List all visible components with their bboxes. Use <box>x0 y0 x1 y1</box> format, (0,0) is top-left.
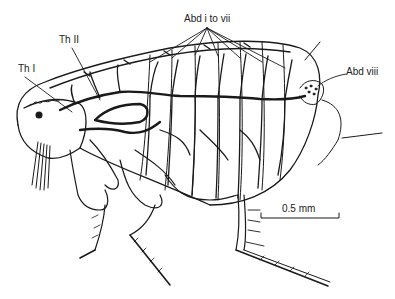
label-abd-i-to-vii: Abd i to vii <box>184 14 230 24</box>
label-th-ii: Th II <box>59 35 79 45</box>
mouthparts <box>32 142 50 190</box>
label-abd-viii: Abd viii <box>346 67 378 77</box>
tracheal-branches <box>71 54 292 198</box>
label-th-i: Th I <box>18 64 35 74</box>
segments <box>140 42 285 200</box>
eye <box>36 112 43 119</box>
scale-bar-label: 0.5 mm <box>282 204 315 214</box>
leader-line-th-ii <box>72 48 100 100</box>
flea-diagram: Abd i to vii Th I Th II Abd viii 0.5 mm <box>0 0 395 299</box>
tracheal-trunk <box>60 92 305 133</box>
